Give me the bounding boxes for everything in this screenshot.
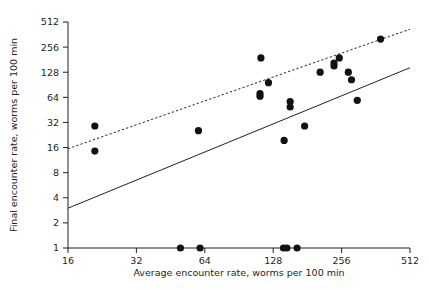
data-point [287,103,294,110]
x-axis-title: Average encounter rate, worms per 100 mi… [133,267,344,278]
data-point [301,122,308,129]
data-point [354,97,361,104]
data-points [91,35,384,251]
x-tick-label: 256 [333,255,351,266]
y-tick-label: 256 [41,42,59,53]
y-tick-label: 128 [41,67,59,78]
data-point [283,244,290,251]
scatter-plot-figure: 1248163264128256512 163264128256512 Aver… [0,0,429,290]
data-point [195,127,202,134]
data-point [265,79,272,86]
data-point [196,244,203,251]
y-axis-title: Final encounter rate, worms per 100 min [8,38,19,232]
data-point [377,35,384,42]
x-axis-ticks: 163264128256512 [62,248,419,266]
x-tick-label: 32 [130,255,142,266]
data-point [330,62,337,69]
y-tick-label: 2 [53,217,59,228]
data-point [257,54,264,61]
data-point [336,54,343,61]
y-tick-label: 32 [47,117,59,128]
plot-canvas: 1248163264128256512 163264128256512 Aver… [0,0,429,290]
x-tick-label: 128 [264,255,282,266]
axis-lines [68,22,410,248]
y-axis-ticks: 1248163264128256512 [41,16,68,253]
y-tick-label: 8 [53,167,59,178]
data-point [256,93,263,100]
data-point [317,69,324,76]
data-point [348,76,355,83]
data-point [293,244,300,251]
y-tick-label: 64 [47,92,59,103]
data-point [91,148,98,155]
regression-lines [68,29,410,208]
x-tick-label: 16 [62,255,74,266]
x-tick-label: 512 [401,255,419,266]
y-tick-label: 4 [53,192,59,203]
data-point [177,244,184,251]
y-tick-label: 16 [47,142,59,153]
data-point [91,122,98,129]
y-tick-label: 1 [53,242,59,253]
x-tick-label: 64 [199,255,211,266]
data-point [281,137,288,144]
y-tick-label: 512 [41,16,59,27]
data-point [345,69,352,76]
